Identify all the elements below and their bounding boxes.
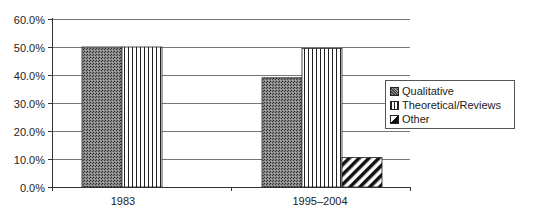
dots-pattern-swatch-icon [390, 87, 399, 96]
y-tick-label: 20.0% [14, 126, 45, 138]
legend-item-qualitative: Qualitative [390, 84, 510, 98]
y-tick-label: 10.0% [14, 154, 45, 166]
y-tick-label: 40.0% [14, 70, 45, 82]
y-tick-label: 30.0% [14, 98, 45, 110]
x-category-label: 1983 [111, 195, 135, 207]
legend-label: Other [402, 112, 430, 126]
y-tick-label: 0.0% [20, 182, 45, 194]
legend-label: Theoretical/Reviews [402, 98, 501, 112]
diagonal-lines-swatch-icon [390, 115, 399, 124]
bar-theoretical-reviews [122, 47, 162, 187]
y-tick-label: 50.0% [14, 42, 45, 54]
vertical-lines-swatch-icon [390, 101, 399, 110]
bar-theoretical-reviews [302, 48, 342, 187]
legend: Qualitative Theoretical/Reviews Other [385, 80, 515, 129]
legend-label: Qualitative [402, 84, 454, 98]
bar-other [342, 158, 382, 187]
legend-item-theoretical-reviews: Theoretical/Reviews [390, 98, 510, 112]
bars [82, 47, 382, 187]
legend-item-other: Other [390, 112, 510, 126]
bar-qualitative [262, 78, 302, 187]
bar-qualitative [82, 47, 122, 187]
x-category-label: 1995–2004 [292, 195, 347, 207]
y-tick-label: 60.0% [14, 14, 45, 26]
